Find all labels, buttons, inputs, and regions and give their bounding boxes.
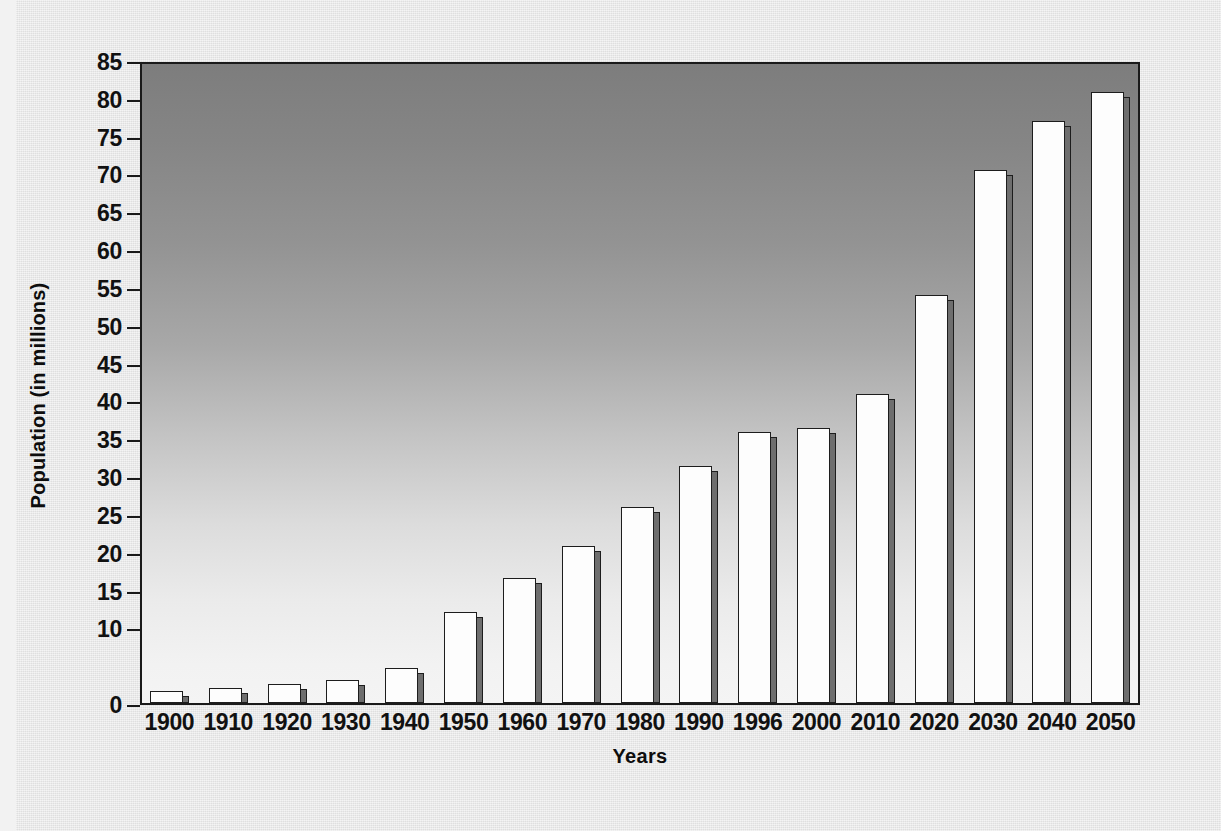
x-axis-tick-label: 2040 [1027,709,1077,736]
x-axis-tick-label: 1910 [203,709,253,736]
y-axis-tick-label: 80 [97,86,122,113]
bar[interactable] [738,432,771,703]
y-axis-tick-label: 65 [97,200,122,227]
y-axis-tick-label: 40 [97,389,122,416]
bar[interactable] [915,295,948,703]
bar[interactable] [444,612,477,703]
y-axis-tick [127,175,140,177]
x-axis-tick-label: 1920 [262,709,312,736]
y-axis-tick-label: 30 [97,465,122,492]
y-axis-tick [127,100,140,102]
y-axis-tick-label: 70 [97,162,122,189]
y-axis-tick-label: 15 [97,578,122,605]
bar[interactable] [621,507,654,703]
y-axis-tick [127,629,140,631]
y-axis-tick [127,251,140,253]
y-axis-tick [127,516,140,518]
y-axis-tick [127,402,140,404]
chart-plot-frame [140,62,1140,705]
y-axis: 858075706560555045403530252015100 [0,62,140,705]
y-axis-tick-label: 50 [97,313,122,340]
y-axis-tick-label: 35 [97,427,122,454]
page-background: Population (in millions) 858075706560555… [0,0,1221,831]
x-axis-tick-label: 2000 [792,709,842,736]
y-axis-tick [127,554,140,556]
y-axis-tick-label: 55 [97,275,122,302]
bar[interactable] [562,546,595,703]
x-axis-tick-label: 2050 [1086,709,1136,736]
bars-container [142,64,1138,703]
y-axis-tick [127,478,140,480]
y-axis-tick [127,138,140,140]
bar[interactable] [856,394,889,703]
bar[interactable] [1032,121,1065,703]
x-axis: 1900191019201930194019501960197019801990… [140,705,1140,745]
bar[interactable] [385,668,418,703]
bar[interactable] [797,428,830,703]
x-axis-tick-label: 1930 [321,709,371,736]
x-axis-tick-label: 2020 [909,709,959,736]
bar[interactable] [326,680,359,703]
x-axis-tick-label: 1960 [498,709,548,736]
bar[interactable] [150,691,183,703]
y-axis-tick [127,365,140,367]
y-axis-tick [127,62,140,64]
y-axis-tick [127,592,140,594]
y-axis-tick-label: 45 [97,351,122,378]
x-axis-tick-label: 1900 [145,709,195,736]
y-axis-tick-label: 20 [97,540,122,567]
x-axis-tick-label: 1940 [380,709,430,736]
y-axis-tick [127,213,140,215]
bar[interactable] [1091,92,1124,703]
y-axis-tick [127,705,140,707]
y-axis-tick [127,327,140,329]
x-axis-tick-label: 2010 [850,709,900,736]
y-axis-tick-label: 25 [97,502,122,529]
x-axis-tick-label: 1996 [733,709,783,736]
x-axis-title: Years [140,745,1140,768]
y-axis-tick-label: 75 [97,124,122,151]
y-axis-tick-label: 60 [97,238,122,265]
y-axis-tick-label: 0 [110,692,123,719]
x-axis-tick-label: 1980 [615,709,665,736]
bar[interactable] [503,578,536,703]
x-axis-tick-label: 1990 [674,709,724,736]
x-axis-tick-label: 2030 [968,709,1018,736]
bar[interactable] [268,684,301,703]
bar[interactable] [679,466,712,703]
y-axis-tick-label: 85 [97,49,122,76]
y-axis-tick [127,289,140,291]
bar[interactable] [209,688,242,703]
x-axis-tick-label: 1950 [439,709,489,736]
x-axis-tick-label: 1970 [556,709,606,736]
bar[interactable] [974,170,1007,703]
y-axis-tick [127,440,140,442]
y-axis-tick-label: 10 [97,616,122,643]
